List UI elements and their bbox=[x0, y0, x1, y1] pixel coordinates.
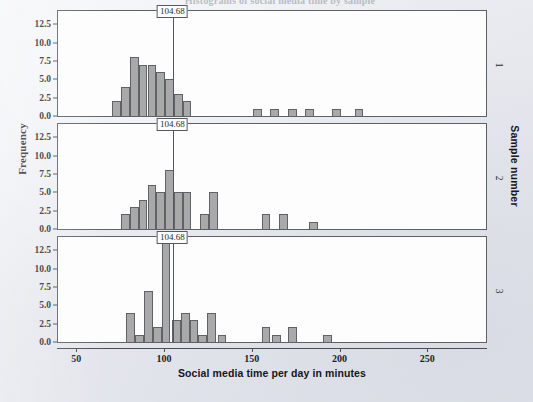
figure-page: Histograms of social media time by sampl… bbox=[0, 0, 533, 402]
x-tick-label: 150 bbox=[244, 353, 259, 364]
x-tick-mark bbox=[427, 348, 428, 352]
x-tick-mark bbox=[76, 348, 77, 352]
x-tick-mark bbox=[252, 348, 253, 352]
x-tick-mark bbox=[164, 348, 165, 352]
x-tick-mark bbox=[340, 348, 341, 352]
x-tick-label: 250 bbox=[420, 353, 435, 364]
x-tick-label: 100 bbox=[157, 353, 172, 364]
x-tick-label: 50 bbox=[71, 353, 81, 364]
x-tick-label: 200 bbox=[332, 353, 347, 364]
reference-line-label: 104.68 bbox=[157, 5, 188, 18]
x-axis: 50100150200250 bbox=[0, 0, 533, 402]
reference-line-label: 104.68 bbox=[157, 231, 188, 244]
reference-line-label: 104.68 bbox=[157, 118, 188, 131]
